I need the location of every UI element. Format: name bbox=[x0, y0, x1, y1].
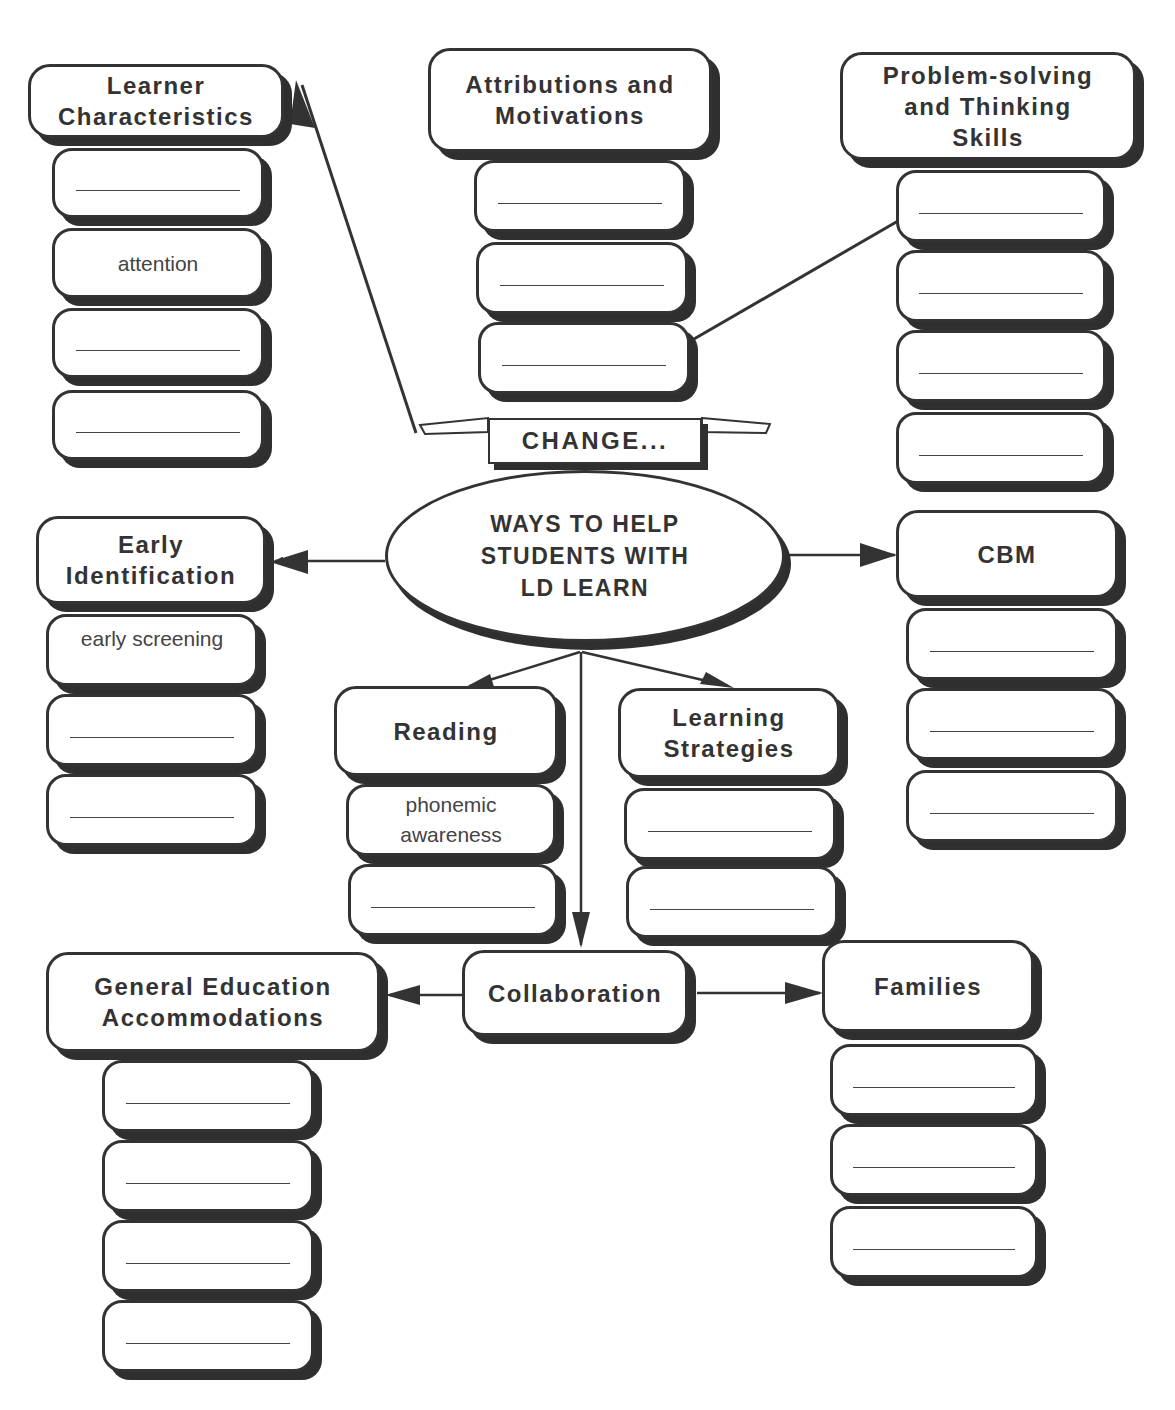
arrowhead-learner-characteristics-icon bbox=[290, 80, 315, 128]
cbm-item-2[interactable] bbox=[906, 688, 1118, 760]
early-identification-item-2[interactable] bbox=[46, 694, 258, 766]
families-item-2[interactable] bbox=[830, 1124, 1038, 1196]
blank-line bbox=[919, 293, 1082, 294]
blank-line bbox=[76, 350, 241, 351]
arrow-to-learning-strategies bbox=[582, 652, 720, 684]
attributions-title-l2: Motivations bbox=[465, 100, 674, 131]
arrow-to-learner-characteristics bbox=[302, 85, 416, 433]
collaboration-title: Collaboration bbox=[488, 978, 662, 1009]
node-families: Families bbox=[822, 940, 1034, 1032]
blank-line bbox=[76, 190, 241, 191]
node-problem-solving: Problem-solving and Thinking Skills bbox=[840, 52, 1136, 160]
learning-strategies-title-l1: Learning bbox=[663, 702, 794, 733]
central-topic-l2: STUDENTS WITH bbox=[481, 540, 690, 572]
blank-line bbox=[853, 1249, 1015, 1250]
arrowhead-cbm-icon bbox=[860, 543, 897, 567]
learning-strategies-item-1[interactable] bbox=[624, 788, 836, 860]
cbm-item-3[interactable] bbox=[906, 770, 1118, 842]
blank-line bbox=[648, 831, 813, 832]
blank-line bbox=[126, 1103, 291, 1104]
arrowhead-families-icon bbox=[785, 982, 823, 1004]
central-topic-l3: LD LEARN bbox=[481, 572, 690, 604]
problem-solving-item-4[interactable] bbox=[896, 412, 1106, 484]
families-item-3[interactable] bbox=[830, 1206, 1038, 1278]
blank-line bbox=[70, 737, 235, 738]
problem-solving-item-1[interactable] bbox=[896, 170, 1106, 242]
learner-characteristics-item-1[interactable] bbox=[52, 148, 264, 218]
learner-characteristics-item-4[interactable] bbox=[52, 390, 264, 460]
banner-wing-left bbox=[420, 418, 488, 434]
blank-line bbox=[70, 817, 235, 818]
learning-strategies-item-2[interactable] bbox=[626, 866, 838, 938]
attributions-item-1[interactable] bbox=[474, 160, 686, 232]
blank-line bbox=[371, 907, 534, 908]
attributions-item-3[interactable] bbox=[478, 322, 690, 394]
problem-solving-title-l3: Skills bbox=[883, 122, 1094, 153]
node-learning-strategies: Learning Strategies bbox=[618, 688, 840, 778]
early-identification-title-l1: Early bbox=[66, 529, 236, 560]
central-topic: WAYS TO HELP STUDENTS WITH LD LEARN bbox=[385, 470, 785, 642]
learner-characteristics-title-l1: Learner bbox=[58, 70, 254, 101]
early-identification-title-l2: Identification bbox=[66, 560, 236, 591]
learner-characteristics-item-text: attention bbox=[118, 248, 199, 279]
reading-title: Reading bbox=[393, 716, 498, 747]
blank-line bbox=[930, 731, 1095, 732]
blank-line bbox=[919, 373, 1082, 374]
general-education-title-l2: Accommodations bbox=[94, 1002, 332, 1033]
cbm-item-1[interactable] bbox=[906, 608, 1118, 680]
blank-line bbox=[126, 1343, 291, 1344]
early-identification-item-3[interactable] bbox=[46, 774, 258, 846]
reading-item-1[interactable]: phonemicawareness bbox=[346, 784, 556, 856]
blank-line bbox=[930, 813, 1095, 814]
learner-characteristics-item-2[interactable]: attention bbox=[52, 228, 264, 298]
blank-line bbox=[502, 365, 667, 366]
problem-solving-title-l1: Problem-solving bbox=[883, 60, 1094, 91]
general-education-title-l1: General Education bbox=[94, 971, 332, 1002]
problem-solving-item-3[interactable] bbox=[896, 330, 1106, 402]
change-banner: CHANGE... bbox=[488, 418, 702, 464]
attributions-title-l1: Attributions and bbox=[465, 69, 674, 100]
arrowhead-early-id-icon bbox=[270, 550, 308, 574]
blank-line bbox=[126, 1263, 291, 1264]
general-education-item-3[interactable] bbox=[102, 1220, 314, 1292]
learning-strategies-title-l2: Strategies bbox=[663, 733, 794, 764]
families-item-1[interactable] bbox=[830, 1044, 1038, 1116]
banner-wing-right bbox=[702, 418, 770, 433]
learner-characteristics-item-3[interactable] bbox=[52, 308, 264, 378]
central-topic-l1: WAYS TO HELP bbox=[481, 508, 690, 540]
early-identification-item-text: early screening bbox=[81, 623, 223, 654]
node-collaboration: Collaboration bbox=[462, 950, 688, 1036]
general-education-item-4[interactable] bbox=[102, 1300, 314, 1372]
arrow-to-reading bbox=[470, 652, 580, 686]
arrowhead-general-education-icon bbox=[385, 985, 420, 1005]
node-general-education-accommodations: General Education Accommodations bbox=[46, 952, 380, 1052]
learner-characteristics-title-l2: Characteristics bbox=[58, 101, 254, 132]
blank-line bbox=[76, 432, 241, 433]
early-identification-item-1[interactable]: early screening bbox=[46, 614, 258, 686]
problem-solving-title-l2: and Thinking bbox=[883, 91, 1094, 122]
general-education-item-1[interactable] bbox=[102, 1060, 314, 1132]
node-learner-characteristics: Learner Characteristics bbox=[28, 64, 284, 138]
problem-solving-item-2[interactable] bbox=[896, 250, 1106, 322]
node-reading: Reading bbox=[334, 686, 558, 776]
blank-line bbox=[126, 1183, 291, 1184]
cbm-title: CBM bbox=[977, 539, 1036, 570]
arrowhead-collaboration-icon bbox=[572, 912, 590, 948]
blank-line bbox=[930, 651, 1095, 652]
blank-line bbox=[500, 285, 665, 286]
blank-line bbox=[650, 909, 815, 910]
general-education-item-2[interactable] bbox=[102, 1140, 314, 1212]
reading-item-2[interactable] bbox=[348, 864, 558, 936]
blank-line bbox=[498, 203, 663, 204]
node-early-identification: Early Identification bbox=[36, 516, 266, 604]
blank-line bbox=[919, 213, 1082, 214]
blank-line bbox=[919, 455, 1082, 456]
blank-line bbox=[853, 1087, 1015, 1088]
reading-item-text-l1: phonemic bbox=[400, 790, 502, 820]
blank-line bbox=[853, 1167, 1015, 1168]
arrowhead-learning-strategies-icon bbox=[700, 672, 734, 688]
link-attributions-problem-solving bbox=[694, 221, 898, 339]
attributions-item-2[interactable] bbox=[476, 242, 688, 314]
node-cbm: CBM bbox=[896, 510, 1118, 598]
reading-item-text-l2: awareness bbox=[400, 820, 502, 850]
